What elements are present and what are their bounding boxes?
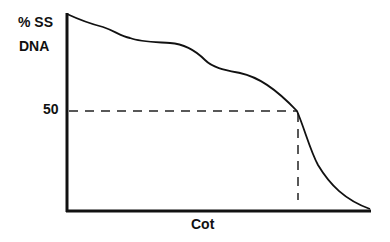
chart-plot [0, 0, 390, 242]
